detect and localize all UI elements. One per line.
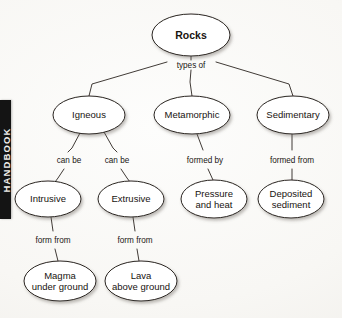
connector-line — [89, 62, 167, 96]
diagram-canvas — [0, 0, 342, 318]
node-ellipse-intrusive[interactable] — [15, 181, 81, 217]
node-ellipse-magma[interactable] — [24, 261, 96, 301]
connector-line — [137, 249, 139, 261]
handbook-tab-label: HANDBOOK — [0, 127, 11, 192]
edge-group — [51, 56, 293, 261]
connector-line — [51, 217, 53, 231]
handbook-index-tab: HANDBOOK — [0, 100, 11, 219]
connector-line — [55, 249, 58, 261]
node-ellipse-igneous[interactable] — [53, 96, 125, 134]
node-ellipse-sedimentary[interactable] — [257, 96, 329, 134]
connector-line — [104, 132, 117, 152]
node-ellipse-rocks[interactable] — [152, 14, 230, 56]
connector-line — [216, 62, 293, 96]
concept-map-page: types ofcan becan beformed byformed from… — [0, 0, 342, 318]
connector-line — [197, 134, 203, 150]
connector-line — [190, 70, 192, 96]
connector-line — [55, 169, 64, 182]
node-group — [15, 14, 329, 301]
node-ellipse-lava[interactable] — [105, 261, 177, 301]
node-ellipse-deposited[interactable] — [258, 180, 324, 218]
connector-line — [133, 217, 135, 231]
node-ellipse-pressure[interactable] — [181, 180, 247, 218]
node-ellipse-metamorphic[interactable] — [154, 96, 230, 134]
connector-line — [121, 169, 130, 182]
connector-line — [68, 133, 80, 152]
connector-line — [208, 169, 213, 180]
node-ellipse-extrusive[interactable] — [98, 181, 164, 217]
